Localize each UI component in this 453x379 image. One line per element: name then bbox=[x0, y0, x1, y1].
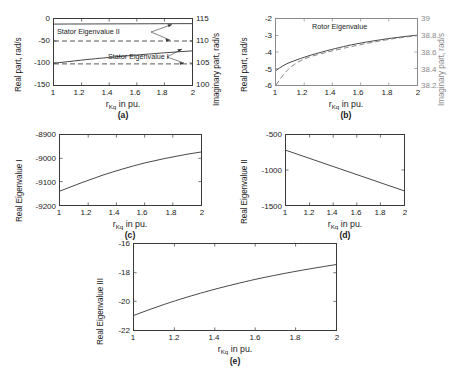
subplot-b-ytick-right-1: 38.8 bbox=[421, 31, 447, 40]
subplot-b-xlabel-tail: in pu. bbox=[339, 99, 363, 109]
subplot-d-ticks bbox=[286, 135, 404, 205]
subplot-c-ylabel: Real Eigenvalue I bbox=[15, 122, 24, 222]
subplot-e-xtick-2: 1.4 bbox=[207, 333, 221, 342]
subplot-c-ytick-2: -9100 bbox=[24, 178, 56, 187]
subplot-c-xtick-4: 1.8 bbox=[164, 208, 178, 217]
subplot-d-curve bbox=[286, 135, 404, 205]
subplot-d-xlabel-tail: in pu. bbox=[338, 219, 362, 229]
subplot-a-ytick-1: -50 bbox=[26, 36, 50, 45]
subplot-c-xtick-5: 2 bbox=[197, 208, 207, 217]
subplot-a-xtick-4: 1.8 bbox=[155, 88, 169, 97]
subplot-b-ylabel-left: Real part, rad/s bbox=[240, 2, 249, 92]
subplot-d-xtick-5: 2 bbox=[400, 208, 410, 217]
subplot-b-annotation-0: Rotor Eigenvalue bbox=[312, 22, 367, 31]
subplot-b-xtick-1: 1.2 bbox=[295, 88, 309, 97]
subplot-c-ytick-0: -8900 bbox=[24, 130, 56, 139]
curve-rotor-real bbox=[276, 35, 417, 70]
subplot-a-ytick-0: 0 bbox=[26, 14, 50, 23]
subplot-b-xlabel: rKq in pu. bbox=[306, 99, 386, 109]
subplot-b-xtick-3: 1.6 bbox=[351, 88, 365, 97]
subplot-c-ytick-3: -9200 bbox=[24, 202, 56, 211]
subplot-c-xlabel-sub: Kq bbox=[116, 223, 124, 230]
curve-real-eigenvalue-i bbox=[60, 152, 201, 191]
subplot-a-xtick-1: 1.2 bbox=[72, 88, 86, 97]
subplot-a-xtick-5: 2 bbox=[188, 88, 198, 97]
subplot-c-xlabel: rKq in pu. bbox=[90, 219, 170, 229]
subplot-b-ytick-right-3: 38.4 bbox=[421, 65, 447, 74]
curve-rotor-imag bbox=[276, 36, 417, 85]
subplot-b-ytick-0: -2 bbox=[252, 14, 272, 23]
subplot-b-ytick-right-0: 39 bbox=[421, 14, 447, 23]
subplot-a-annotation-0: Stator Eigenvalue II bbox=[57, 27, 120, 36]
subplot-e-xtick-0: 1 bbox=[128, 333, 138, 342]
subplot-e-xtick-4: 1.8 bbox=[288, 333, 302, 342]
subplot-c-curve bbox=[60, 135, 201, 205]
subplot-e-xtick-1: 1.2 bbox=[167, 333, 181, 342]
subplot-b-ytick-1: -3 bbox=[252, 31, 272, 40]
subplot-e-ytick-2: -20 bbox=[106, 297, 130, 306]
subplot-b-xlabel-sub: Kq bbox=[332, 103, 340, 110]
subplot-b-panel-label: (b) bbox=[321, 110, 371, 120]
subplot-b-xtick-5: 2 bbox=[413, 88, 423, 97]
subplot-d-xlabel: rKq in pu. bbox=[305, 219, 385, 229]
subplot-c-xtick-2: 1.4 bbox=[107, 208, 121, 217]
subplot-e-panel-label: (e) bbox=[210, 356, 260, 366]
subplot-e-curve bbox=[134, 244, 336, 330]
subplot-d-xlabel-sub: Kq bbox=[331, 223, 339, 230]
subplot-c-xtick-1: 1.2 bbox=[79, 208, 93, 217]
subplot-d-xtick-4: 1.8 bbox=[373, 208, 387, 217]
subplot-a-xlabel-sub: Kq bbox=[109, 103, 117, 110]
subplot-a-annotation-1: Stator Eigenvalue I bbox=[108, 52, 169, 61]
subplot-e-ytick-3: -22 bbox=[106, 326, 130, 335]
curve-real-eigenvalue-iii bbox=[134, 265, 336, 316]
subplot-b-ytick-3: -5 bbox=[252, 65, 272, 74]
subplot-e-xlabel: rKq in pu. bbox=[195, 344, 275, 354]
subplot-d-ytick-1: -1000 bbox=[250, 166, 282, 175]
curve-real-eigenvalue-ii bbox=[286, 150, 404, 191]
subplot-a-ytick-3: -150 bbox=[26, 80, 50, 89]
subplot-b-xtick-2: 1.4 bbox=[323, 88, 337, 97]
subplot-a-ytick-right-0: 115 bbox=[196, 14, 222, 23]
subplot-e-ticks bbox=[134, 244, 336, 330]
subplot-e-ytick-1: -18 bbox=[106, 268, 130, 277]
subplot-e-plot-area bbox=[133, 243, 337, 331]
subplot-a-ytick-2: -100 bbox=[26, 58, 50, 67]
subplot-b-ytick-right-4: 38.2 bbox=[421, 81, 447, 90]
subplot-d-xtick-0: 1 bbox=[280, 208, 290, 217]
subplot-a-xtick-3: 1.6 bbox=[128, 88, 142, 97]
subplot-b-ytick-right-2: 38.6 bbox=[421, 48, 447, 57]
subplot-a-xlabel-tail: in pu. bbox=[116, 99, 140, 109]
subplot-a-xlabel: rKq in pu. bbox=[83, 99, 163, 109]
subplot-c-plot-area bbox=[59, 134, 202, 206]
subplot-d-xtick-1: 1.2 bbox=[302, 208, 316, 217]
subplot-d-ytick-0: -500 bbox=[250, 130, 282, 139]
subplot-a-xtick-2: 1.4 bbox=[100, 88, 114, 97]
subplot-c-xlabel-tail: in pu. bbox=[123, 219, 147, 229]
subplot-c-ticks bbox=[60, 135, 201, 205]
subplot-c-xtick-0: 1 bbox=[54, 208, 64, 217]
subplot-b-ytick-2: -4 bbox=[252, 48, 272, 57]
subplot-e-ytick-0: -16 bbox=[106, 239, 130, 248]
subplot-d-xtick-2: 1.4 bbox=[325, 208, 339, 217]
subplot-b-xtick-4: 1.8 bbox=[380, 88, 394, 97]
subplot-c-ytick-1: -9000 bbox=[24, 154, 56, 163]
subplot-a-panel-label: (a) bbox=[98, 110, 148, 120]
subplot-d-panel-label: (d) bbox=[320, 230, 370, 240]
subplot-e-xtick-5: 2 bbox=[332, 333, 342, 342]
subplot-d-ylabel: Real Eigenvalue II bbox=[240, 120, 249, 224]
subplot-a-ytick-right-1: 110 bbox=[196, 36, 222, 45]
subplot-a-ytick-right-3: 100 bbox=[196, 80, 222, 89]
subplot-d-xtick-3: 1.6 bbox=[349, 208, 363, 217]
subplot-c-xtick-3: 1.6 bbox=[135, 208, 149, 217]
subplot-a-ytick-right-2: 105 bbox=[196, 58, 222, 67]
subplot-e-ylabel: Real Eigenvalue III bbox=[96, 235, 105, 345]
subplot-b-xtick-0: 1 bbox=[270, 88, 280, 97]
subplot-d-ytick-2: -1500 bbox=[250, 202, 282, 211]
subplot-a-xtick-0: 1 bbox=[48, 88, 58, 97]
subplot-e-xtick-3: 1.6 bbox=[248, 333, 262, 342]
subplot-e-xlabel-tail: in pu. bbox=[228, 344, 252, 354]
subplot-a-ylabel-left: Real part, rad/s bbox=[14, 2, 23, 92]
subplot-e-xlabel-sub: Kq bbox=[221, 348, 229, 355]
subplot-d-plot-area bbox=[285, 134, 405, 206]
subplot-b-ytick-4: -6 bbox=[252, 81, 272, 90]
